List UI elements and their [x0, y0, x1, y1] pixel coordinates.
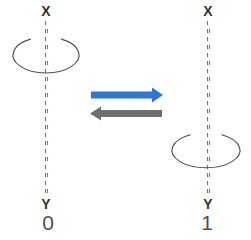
arrow-right-icon — [91, 88, 163, 103]
right-rotation-loop-icon — [172, 135, 240, 168]
diagram-canvas — [0, 0, 251, 240]
right-axis-dashed-line — [208, 21, 210, 196]
state-one-label: 1 — [201, 212, 213, 233]
qubit-rotation-diagram: X X Y Y 0 1 — [0, 0, 251, 240]
state-zero-label: 0 — [42, 212, 54, 233]
right-axis-bottom-label: Y — [203, 197, 212, 211]
left-axis-dashed-line — [46, 21, 48, 196]
left-axis-top-label: X — [41, 4, 50, 18]
left-axis-bottom-label: Y — [41, 197, 50, 211]
arrow-left-icon — [90, 107, 162, 121]
right-axis-top-label: X — [203, 4, 212, 18]
